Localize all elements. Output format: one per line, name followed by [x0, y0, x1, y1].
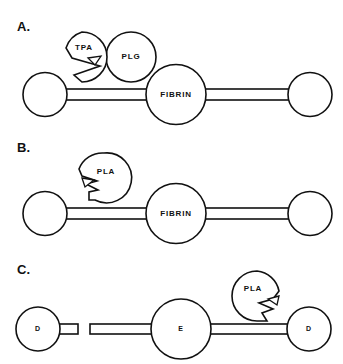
panel-a: A. FIBRIN PLG TP: [17, 19, 332, 125]
panel-b-pla-label: PLA: [97, 167, 115, 176]
panel-b-fibrin-left-end: [23, 192, 67, 236]
panel-c-d-left-label: D: [35, 325, 41, 332]
figure-canvas: A. FIBRIN PLG TP: [0, 0, 343, 364]
panel-a-tpa: TPA: [66, 32, 107, 82]
panel-b-fibrin-label: FIBRIN: [160, 209, 191, 218]
panel-a-fibrin-strand: FIBRIN: [23, 65, 332, 125]
panel-a-plg-label: PLG: [122, 52, 141, 61]
panel-b-pla: PLA: [79, 153, 132, 203]
panel-c-ed-fragment: E D: [90, 299, 331, 359]
panel-c-pla: PLA: [232, 271, 279, 321]
fibrinolysis-figure: A. FIBRIN PLG TP: [0, 0, 343, 364]
panel-c-pla-body: [232, 271, 279, 321]
panel-a-tpa-label: TPA: [75, 43, 93, 52]
panel-b-fibrin-right-end: [288, 192, 332, 236]
panel-a-plg: PLG: [106, 32, 156, 82]
panel-b-fibrin-strand: FIBRIN: [23, 184, 332, 244]
panel-c: C. D E D PLA: [16, 262, 331, 359]
panel-a-fibrin-right-end: [288, 73, 332, 117]
panel-b-label: B.: [17, 140, 30, 155]
panel-a-label: A.: [17, 19, 30, 34]
panel-c-e-label: E: [178, 325, 183, 332]
panel-c-pla-label: PLA: [244, 284, 262, 293]
panel-c-label: C.: [17, 262, 30, 277]
panel-b: B. FIBRIN PLA: [17, 140, 332, 244]
panel-a-fibrin-left-end: [23, 73, 67, 117]
panel-b-pla-body: [79, 153, 132, 203]
panel-c-d-left-fragment: D: [16, 307, 78, 351]
panel-c-d-right-label: D: [306, 325, 312, 332]
panel-a-fibrin-label: FIBRIN: [160, 90, 191, 99]
